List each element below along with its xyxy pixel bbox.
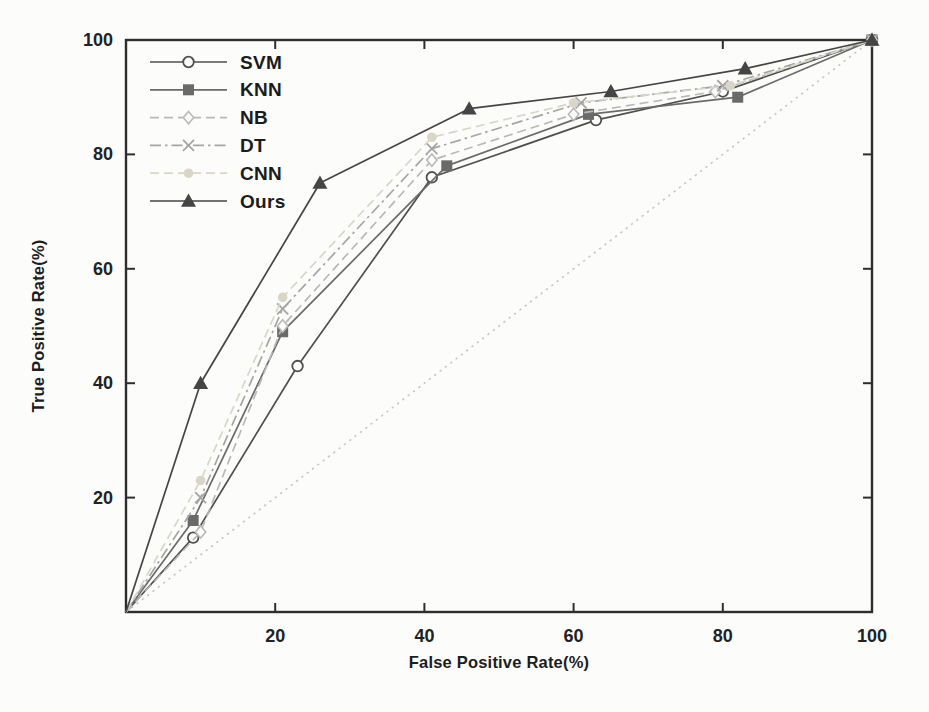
x-tick-label-20: 20 [265, 626, 285, 646]
legend-item-dt: DT [150, 135, 266, 156]
marker-knn-43-78 [441, 160, 452, 171]
legend-label-dt: DT [240, 135, 266, 156]
chance-diagonal-line [126, 40, 872, 612]
legend-label-ours: Ours [240, 191, 286, 212]
legend-item-knn: KNN [150, 79, 282, 100]
x-tick-label-80: 80 [713, 626, 733, 646]
legend-label-svm: SVM [240, 52, 282, 73]
series-markers-dt [195, 35, 877, 504]
legend-label-nb: NB [240, 107, 268, 128]
y-tick-label-60: 60 [93, 259, 113, 279]
legend-marker-cnn [184, 168, 194, 178]
series-markers-nb [195, 34, 877, 538]
series-markers-ours [193, 33, 879, 390]
y-tick-label-80: 80 [93, 144, 113, 164]
legend-label-knn: KNN [240, 79, 282, 100]
marker-ours-26-75 [312, 176, 327, 189]
x-tick-label-100: 100 [857, 626, 887, 646]
legend: SVMKNNNBDTCNNOurs [150, 52, 286, 212]
marker-knn-9-16 [188, 515, 199, 526]
roc-chart-canvas: 2040608010020406080100SVMKNNNBDTCNNOurs … [0, 0, 929, 712]
series-markers-knn [188, 35, 878, 526]
legend-item-svm: SVM [150, 52, 282, 73]
marker-svm-23-43 [292, 361, 303, 372]
marker-cnn-60-89 [569, 98, 579, 108]
legend-item-nb: NB [150, 107, 268, 128]
y-tick-label-100: 100 [83, 30, 113, 50]
x-tick-label-60: 60 [564, 626, 584, 646]
marker-ours-10-40 [193, 376, 208, 389]
series-markers-svm [188, 35, 877, 543]
legend-marker-knn [183, 84, 194, 95]
marker-knn-82-90 [732, 92, 743, 103]
roc-curve-figure: 2040608010020406080100SVMKNNNBDTCNNOurs … [0, 0, 929, 712]
marker-cnn-81-92 [725, 81, 735, 91]
series-markers-cnn [196, 35, 877, 485]
marker-cnn-10-23 [196, 476, 206, 486]
y-tick-label-40: 40 [93, 373, 113, 393]
legend-item-cnn: CNN [150, 163, 282, 184]
marker-dt-41-81 [426, 143, 437, 154]
x-tick-label-40: 40 [414, 626, 434, 646]
legend-item-ours: Ours [150, 191, 286, 212]
x-axis-title: False Positive Rate(%) [409, 653, 589, 671]
marker-cnn-21-55 [278, 293, 288, 303]
marker-cnn-41-83 [427, 132, 437, 142]
legend-marker-dt [183, 140, 194, 151]
y-axis-title: True Positive Rate(%) [29, 240, 47, 413]
legend-label-cnn: CNN [240, 163, 282, 184]
y-tick-label-20: 20 [93, 488, 113, 508]
legend-marker-svm [183, 57, 194, 68]
legend-marker-nb [183, 111, 193, 123]
